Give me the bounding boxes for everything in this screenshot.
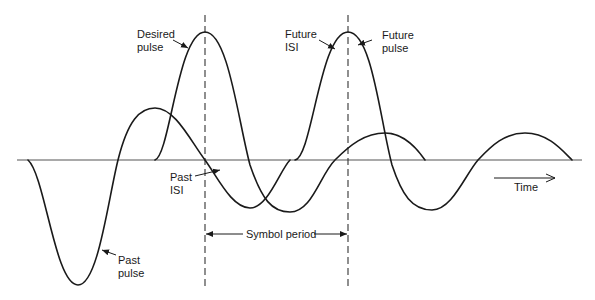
past-pulse-curve xyxy=(28,108,290,285)
future-isi-label: Future ISI xyxy=(285,28,317,54)
desired-pulse-curve xyxy=(155,32,425,212)
past-isi-label: Past ISI xyxy=(170,171,192,197)
past-pulse-label: Past pulse xyxy=(118,254,144,280)
future-isi-leader xyxy=(319,40,335,49)
future-pulse-label: Future pulse xyxy=(382,29,414,55)
past-pulse-leader xyxy=(102,250,116,255)
desired-pulse-leader xyxy=(173,40,188,48)
time-label: Time xyxy=(514,181,538,194)
desired-pulse-label: Desired pulse xyxy=(137,28,175,54)
symbol-period-label: Symbol period xyxy=(246,228,316,241)
past-isi-leader xyxy=(195,170,220,176)
